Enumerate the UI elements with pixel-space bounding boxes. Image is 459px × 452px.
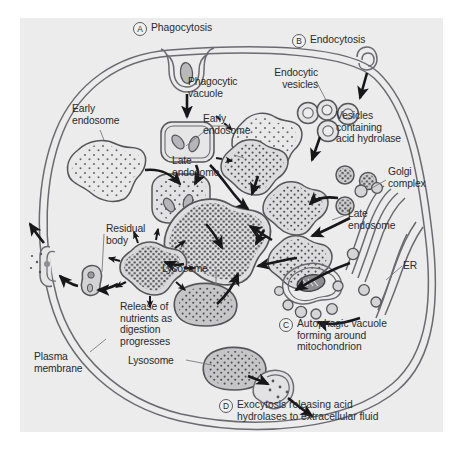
- residual-body-exocytosis: [30, 246, 56, 286]
- early-endosome-left: [67, 141, 145, 202]
- leader-residual-body: [102, 234, 104, 272]
- late-endosome-mid: [263, 182, 328, 235]
- arrow-residual-release: [30, 224, 44, 243]
- stage-marker-d: D Exocytosis releasing acid hydrolases t…: [219, 399, 378, 422]
- label-early-endosome-left: Early endosome: [72, 103, 119, 126]
- arrow-residual-to-exocytosis: [60, 276, 78, 286]
- arrow-endo-to-vesicles: [360, 73, 367, 98]
- stage-marker-b: B Endocytosis: [292, 34, 366, 48]
- stage-letter-d: D: [219, 399, 233, 413]
- stage-label-b: Endocytosis: [310, 34, 366, 46]
- arrow-hydrolase-to-late: [312, 218, 350, 236]
- label-release-nutrients: Release of nutrients as digestion progre…: [120, 301, 172, 347]
- label-lysosome-bottom: Lysosome: [128, 355, 174, 367]
- stage-label-a: Phagocytosis: [151, 22, 212, 34]
- label-plasma-membrane: Plasma membrane: [34, 351, 82, 374]
- label-golgi-complex: Golgi complex: [388, 166, 426, 189]
- label-late-endosome-left: Late endosome: [172, 155, 219, 178]
- stage-marker-a: A Phagocytosis: [133, 22, 212, 36]
- label-residual-body: Residual body: [106, 223, 145, 246]
- stage-letter-c: C: [279, 318, 293, 332]
- leader-late-endosome-right: [332, 215, 346, 220]
- label-early-endosome-right: Early endosome: [203, 113, 250, 136]
- arrow-digest-to-residual: [98, 284, 118, 290]
- stage-letter-b: B: [292, 34, 306, 48]
- label-er: ER: [403, 260, 417, 272]
- endocytosis-invagination: [357, 47, 377, 70]
- leader-early-endosome-left: [100, 130, 104, 140]
- label-phagocytic-vacuole: Phagocytic vacuole: [188, 76, 237, 99]
- stage-marker-c: C Autophagic vacuole forming around mito…: [279, 318, 387, 353]
- arrow-vesicles-to-early-right: [312, 137, 320, 160]
- cell-diagram-figure: Phagocytic vacuole Early endosome Early …: [20, 18, 443, 432]
- label-endocytic-vesicles: Endocytic vesicles: [256, 67, 318, 90]
- label-late-endosome-right: Late endosome: [348, 208, 395, 231]
- stage-letter-a: A: [133, 22, 147, 36]
- golgi-complex: [346, 183, 423, 318]
- label-lysosome-center: Lysosome: [162, 263, 208, 275]
- stage-label-d: Exocytosis releasing acid hydrolases to …: [237, 399, 378, 422]
- leader-plasma-membrane: [90, 339, 106, 352]
- label-vesicles-acid-hydrolase: Vesicles containing acid hydrolase: [336, 110, 401, 145]
- stage-label-c: Autophagic vacuole forming around mitoch…: [297, 318, 387, 353]
